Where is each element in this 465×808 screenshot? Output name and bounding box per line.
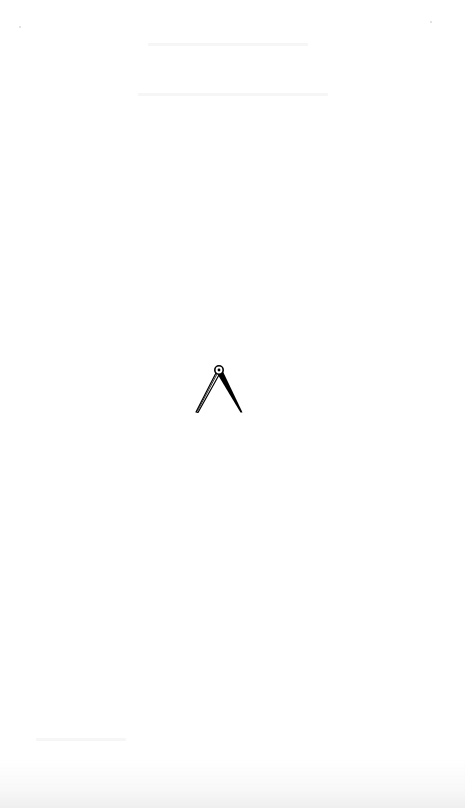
compass-ornament bbox=[192, 364, 246, 416]
show-through-line bbox=[36, 738, 126, 741]
blank-page bbox=[0, 0, 465, 808]
scan-speck bbox=[430, 21, 432, 23]
drafting-compass-icon bbox=[192, 364, 246, 416]
show-through-line bbox=[138, 93, 328, 96]
scan-speck bbox=[19, 26, 21, 28]
show-through-line bbox=[148, 43, 308, 46]
